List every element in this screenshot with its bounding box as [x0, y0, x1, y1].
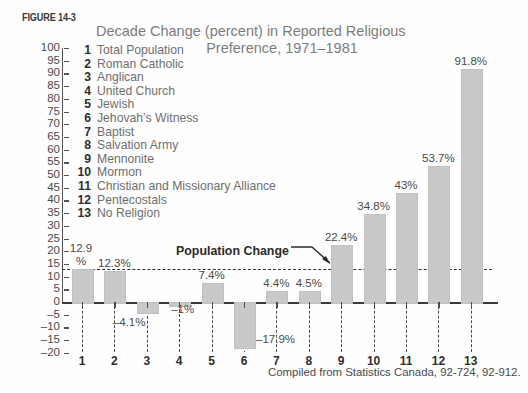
x-axis-category-label: 3 [137, 354, 157, 368]
x-tick-mark [244, 302, 245, 308]
legend-item-label: Pentecostals [97, 194, 167, 208]
legend-item: 1Total Population [72, 44, 332, 58]
y-tick-label: –10 [20, 321, 60, 333]
bar [72, 269, 94, 304]
legend-item-number: 2 [72, 58, 91, 72]
legend-item: 8Salvation Army [72, 139, 332, 153]
y-tick-label: 20 [20, 245, 60, 257]
y-tick-label: –5 [20, 309, 60, 321]
category-drop-line [341, 306, 342, 352]
y-tick-label: 95 [20, 55, 60, 67]
category-drop-line [438, 306, 439, 352]
bar [234, 302, 256, 349]
legend-item-label: Christian and Missionary Alliance [97, 180, 276, 194]
legend-item: 6Jehovah’s Witness [72, 112, 332, 126]
x-tick-mark [309, 302, 310, 308]
y-tick-mark [64, 213, 69, 214]
legend-item-label: No Religion [97, 207, 160, 221]
category-drop-line [471, 306, 472, 352]
y-tick-label: 90 [20, 67, 60, 79]
y-tick-mark [64, 188, 69, 189]
category-drop-line [147, 316, 148, 352]
y-tick-label: 75 [20, 106, 60, 118]
legend-item: 11Christian and Missionary Alliance [72, 180, 332, 194]
legend-item-label: Salvation Army [97, 139, 178, 153]
category-drop-line [406, 306, 407, 352]
y-tick-mark [64, 239, 69, 240]
y-tick-mark [64, 86, 69, 87]
y-tick-mark [64, 289, 69, 290]
y-tick-label: 25 [20, 233, 60, 245]
category-drop-line [179, 309, 180, 352]
y-tick-label: 5 [20, 283, 60, 295]
legend-item-number: 7 [72, 126, 91, 140]
legend-item: 7Baptist [72, 126, 332, 140]
x-tick-mark [276, 302, 277, 308]
x-axis-category-label: 4 [169, 354, 189, 368]
bar [428, 166, 450, 304]
y-tick-mark [64, 99, 69, 100]
y-tick-label: –20 [20, 347, 60, 359]
legend-item-number: 11 [72, 180, 91, 194]
bar [364, 214, 386, 304]
legend-item: 3Anglican [72, 71, 332, 85]
y-tick-mark [64, 277, 69, 278]
legend-item: 13No Religion [72, 207, 332, 221]
legend-item-label: Jewish [97, 98, 134, 112]
bar-value-label: 91.8% [450, 55, 492, 67]
x-tick-mark [471, 302, 472, 308]
legend-item-number: 5 [72, 98, 91, 112]
y-tick-mark [64, 353, 69, 354]
y-tick-label: 30 [20, 220, 60, 232]
category-drop-line [276, 306, 277, 352]
y-tick-mark [64, 340, 69, 341]
bar-value-label: 53.7% [417, 152, 459, 164]
y-tick-mark [64, 124, 69, 125]
y-tick-label: 50 [20, 169, 60, 181]
x-tick-mark [406, 302, 407, 308]
legend-item-number: 12 [72, 194, 91, 208]
y-tick-label: 35 [20, 207, 60, 219]
figure-container: FIGURE 14-3 Decade Change (percent) in R… [0, 0, 528, 393]
bar [461, 69, 483, 304]
bar-value-label: 4.5% [288, 277, 330, 289]
bar [396, 193, 418, 304]
y-tick-mark [64, 175, 69, 176]
x-tick-mark [114, 302, 115, 308]
bar-value-label: 12.9% [66, 242, 96, 267]
legend-item-number: 13 [72, 207, 91, 221]
legend-item-number: 9 [72, 153, 91, 167]
category-drop-line [309, 306, 310, 352]
y-tick-label: 40 [20, 194, 60, 206]
y-tick-label: 100 [20, 42, 60, 54]
x-tick-mark [147, 302, 148, 308]
y-tick-mark [64, 315, 69, 316]
category-drop-line [114, 306, 115, 352]
bar-value-label: –4.1% [113, 316, 146, 328]
y-tick-label: 85 [20, 80, 60, 92]
legend: 1Total Population2Roman Catholic3Anglica… [72, 44, 332, 221]
legend-item: 12Pentecostals [72, 194, 332, 208]
y-tick-mark [64, 61, 69, 62]
y-tick-label: –15 [20, 334, 60, 346]
bar-value-label: 43% [385, 179, 427, 191]
x-tick-mark [179, 302, 180, 308]
bar-value-label: 22.4% [320, 231, 362, 243]
bar [104, 271, 126, 304]
category-drop-line [82, 306, 83, 352]
legend-item-number: 3 [72, 71, 91, 85]
category-drop-line [374, 306, 375, 352]
y-tick-mark [64, 226, 69, 227]
x-axis-category-label: 6 [234, 354, 254, 368]
legend-item-label: Jehovah’s Witness [97, 112, 198, 126]
y-tick-label: 10 [20, 271, 60, 283]
bar-value-label: 12.3% [93, 257, 135, 269]
x-tick-mark [82, 302, 83, 308]
bar-value-label: 7.4% [191, 269, 233, 281]
legend-item-label: Mormon [97, 166, 142, 180]
y-tick-mark [64, 73, 69, 74]
bar [202, 283, 224, 304]
y-tick-label: 15 [20, 258, 60, 270]
x-axis-category-label: 1 [72, 354, 92, 368]
x-axis-category-label: 2 [104, 354, 124, 368]
